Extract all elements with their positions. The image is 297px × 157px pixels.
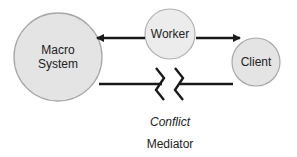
diagram-canvas [0,0,297,157]
worker-label: Worker [145,27,195,41]
conflict-label: Conflict [140,115,200,129]
client-label: Client [232,55,280,69]
macro-label-line2: System [28,57,88,71]
macro-label-line1: Macro [28,43,88,57]
macro-system-label: Macro System [28,43,88,71]
mediator-caption: Mediator [135,137,205,151]
